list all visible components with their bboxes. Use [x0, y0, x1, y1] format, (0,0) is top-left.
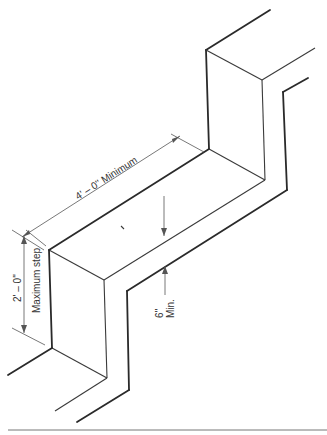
tread-length-dimension: 4' – 0'' Minimum [22, 134, 204, 246]
thickness-note-label: Min. [165, 299, 176, 318]
riser-height-dimension: 2' – 0'' Maximum step [12, 230, 45, 345]
stair-diagram: 4' – 0'' Minimum 2' – 0'' Maximum step 6… [0, 0, 327, 435]
thickness-value-label: 6'' [154, 309, 165, 318]
stair-outline [8, 10, 315, 422]
tread-length-label: 4' – 0'' Minimum [73, 154, 139, 202]
riser-note-label: Maximum step [31, 248, 42, 313]
thickness-dimension: 6'' Min. [154, 196, 176, 318]
riser-height-label: 2' – 0'' [12, 274, 23, 302]
